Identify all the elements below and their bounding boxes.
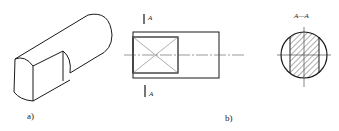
section-mark-top: A	[147, 14, 153, 22]
panel-a-label: a)	[27, 111, 34, 121]
section-mark-bottom: A	[148, 90, 154, 98]
section-view	[277, 27, 331, 87]
technical-drawing: a) A A b) A—A	[0, 0, 339, 131]
panel-b-label: b)	[225, 113, 233, 123]
front-view	[124, 14, 246, 97]
section-title: A—A	[293, 12, 310, 20]
drawing-svg: a) A A b) A—A	[0, 0, 339, 131]
isometric-view	[14, 14, 112, 101]
